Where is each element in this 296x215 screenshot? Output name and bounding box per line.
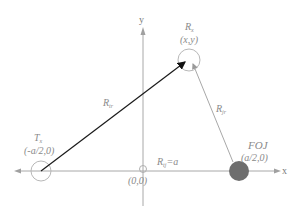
tx-coord: (-a/2,0) bbox=[24, 146, 54, 156]
rx-coord: (x,y) bbox=[180, 35, 198, 45]
tx-label: Tx bbox=[34, 133, 42, 144]
rx-sub: x bbox=[191, 27, 194, 33]
tx-sub: x bbox=[40, 138, 43, 144]
origin-coord: (0,0) bbox=[128, 176, 147, 186]
r-jr-sub: jr bbox=[222, 109, 226, 115]
r-tr-label: Rtr bbox=[103, 98, 113, 109]
x-axis-label: x bbox=[282, 166, 287, 176]
y-axis-arrow-icon bbox=[141, 27, 146, 35]
r-tj-label: Rtj=a bbox=[157, 157, 178, 168]
r-jr-line bbox=[193, 64, 233, 162]
diagram-root: y x Rx (x,y) Tx (-a/2,0) FOJ (a/2,0) (0,… bbox=[0, 0, 296, 215]
r-jr-label: Rjr bbox=[216, 104, 226, 115]
diagram-canvas bbox=[0, 0, 296, 215]
rx-node-circle bbox=[178, 49, 200, 71]
foj-node-circle bbox=[229, 161, 249, 181]
r-tj-suffix: =a bbox=[166, 156, 178, 167]
x-axis-left-arrow-icon bbox=[14, 169, 21, 174]
foj-label: FOJ bbox=[248, 140, 268, 151]
foj-coord: (a/2,0) bbox=[241, 153, 268, 163]
r-tr-arrow bbox=[41, 62, 185, 171]
x-axis-right-arrow-icon bbox=[274, 169, 281, 174]
y-axis-label: y bbox=[139, 15, 144, 25]
r-tr-sub: tr bbox=[109, 103, 113, 109]
rx-label: Rx bbox=[185, 22, 194, 33]
